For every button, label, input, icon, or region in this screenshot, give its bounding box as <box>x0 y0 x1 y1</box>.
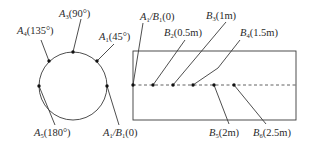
leader-line-b6 <box>234 85 266 124</box>
leader-line-b4-top <box>218 40 240 68</box>
label-a1-b1-rect: A1/B1(0) <box>139 11 175 23</box>
label-b3: B3(1m) <box>206 10 237 22</box>
point-a4 <box>47 59 50 62</box>
label-a1-b1-circle: A1/B1(0) <box>102 127 138 139</box>
point-b4 <box>191 83 194 86</box>
rect-diagram: A1/B1(0) B2(0.5m) B3(1m) B4(1.5m) B5(2m) <box>131 10 296 139</box>
label-a1: A1(45°) <box>98 31 131 43</box>
label-a5: A5(180°) <box>33 127 71 139</box>
label-b2: B2(0.5m) <box>164 27 202 39</box>
leader-line-a5 <box>39 86 55 125</box>
leader-line-a4 <box>41 40 49 61</box>
point-b2 <box>151 83 154 86</box>
leader-line-b2 <box>153 40 185 85</box>
leader-line-a1 <box>97 44 114 61</box>
point-b6 <box>232 83 235 86</box>
label-b5: B5(2m) <box>209 127 240 139</box>
leader-line-b5 <box>214 85 229 124</box>
point-b3 <box>171 83 174 86</box>
label-a4: A4(135°) <box>16 25 54 37</box>
leader-line-b4 <box>193 68 218 85</box>
leader-line-a1-b1-rect <box>133 23 143 85</box>
leader-line-a3 <box>73 19 81 52</box>
circle-diagram: A3(90°) A1(45°) A4(135°) A5(180°) A1/B1(… <box>16 8 138 139</box>
point-a1 <box>95 59 98 62</box>
leader-line-a1-b1-circle <box>107 86 119 125</box>
label-b4: B4(1.5m) <box>240 27 278 39</box>
diagram-canvas: A3(90°) A1(45°) A4(135°) A5(180°) A1/B1(… <box>0 0 311 147</box>
point-a1-b1-circle <box>105 84 108 87</box>
label-a3: A3(90°) <box>58 8 91 20</box>
point-b5 <box>212 83 215 86</box>
label-b6: B6(2.5m) <box>253 127 291 139</box>
point-a3 <box>71 50 74 53</box>
point-a5 <box>37 84 40 87</box>
point-b1 <box>131 83 134 86</box>
